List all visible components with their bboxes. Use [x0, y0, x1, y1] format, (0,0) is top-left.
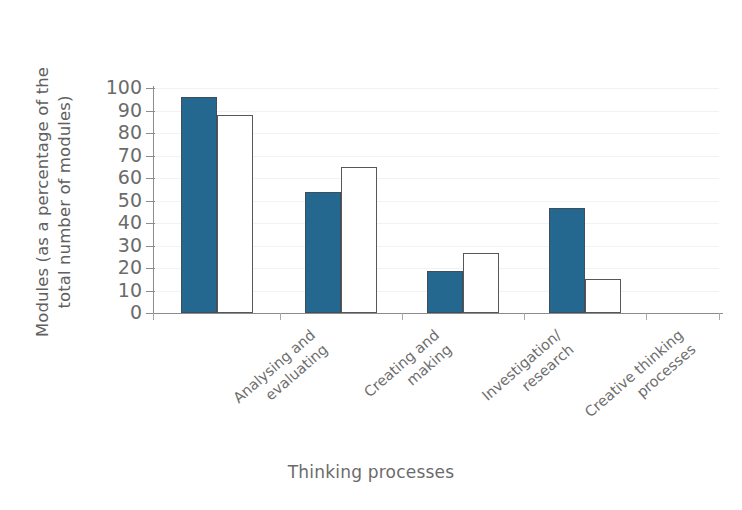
x-axis-title: Thinking processes	[0, 462, 742, 482]
x-axis-line	[153, 313, 723, 314]
x-axis-tick	[280, 313, 281, 320]
bar-series-hollow-0	[217, 115, 253, 313]
bar-series-hollow-3	[585, 279, 621, 313]
x-axis-tick	[402, 313, 403, 320]
x-axis-tick	[646, 313, 647, 320]
x-axis-tick	[153, 313, 154, 320]
bar-series-filled-1	[305, 192, 341, 314]
bar-series-filled-2	[427, 271, 463, 313]
bar-series-filled-3	[549, 208, 585, 313]
bar-series-hollow-1	[341, 167, 377, 313]
bar-series-filled-0	[181, 97, 217, 313]
bar-chart: Modules (as a percentage of the total nu…	[0, 0, 742, 510]
bar-series-hollow-2	[463, 253, 499, 313]
x-axis-tick	[719, 313, 720, 320]
bars-layer	[0, 0, 742, 313]
x-axis-tick	[524, 313, 525, 320]
